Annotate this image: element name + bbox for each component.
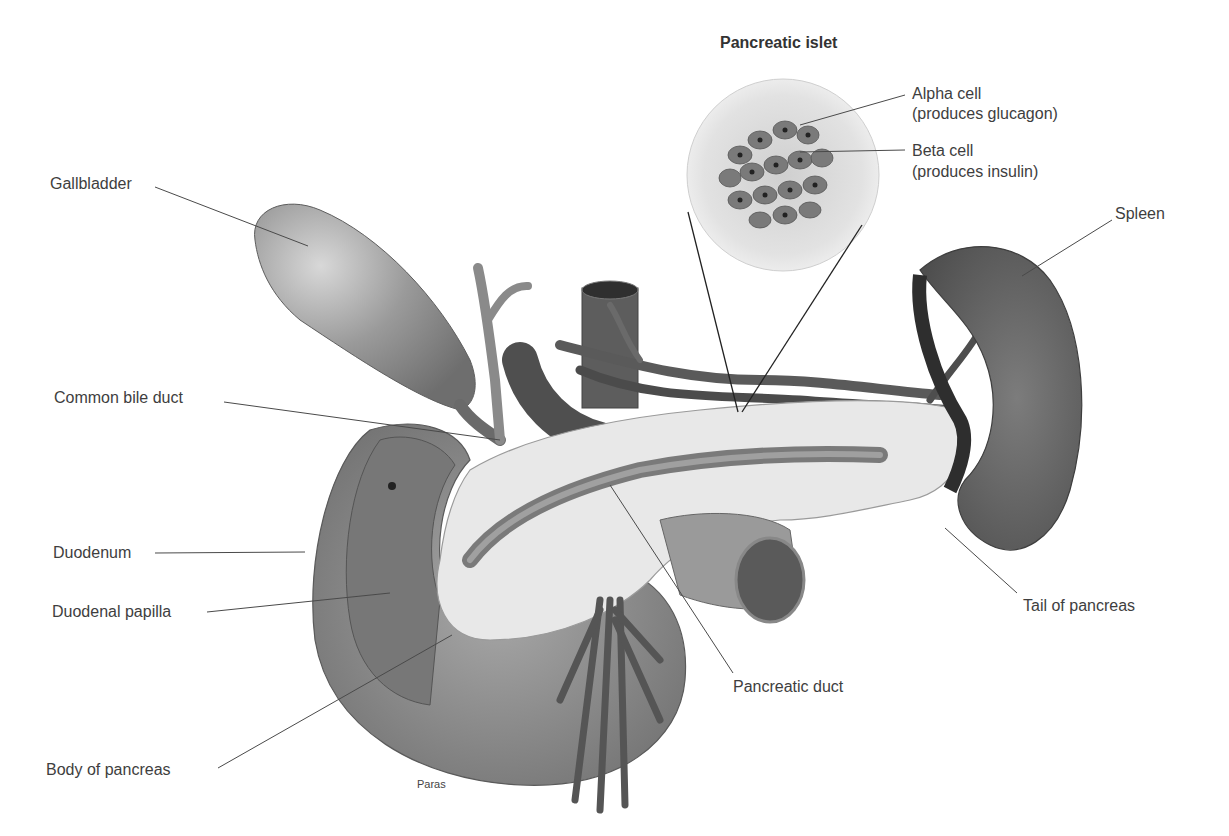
pancreas-anatomy-illustration — [0, 0, 1229, 836]
label-beta-cell: Beta cell — [912, 141, 973, 160]
label-body-of-pancreas: Body of pancreas — [46, 760, 171, 779]
inset-title: Pancreatic islet — [720, 34, 837, 52]
label-common-bile-duct: Common bile duct — [54, 388, 183, 407]
label-tail-of-pancreas: Tail of pancreas — [1023, 596, 1135, 615]
label-duodenum: Duodenum — [53, 543, 131, 562]
label-spleen: Spleen — [1115, 204, 1165, 223]
label-alpha-cell: Alpha cell — [912, 84, 981, 103]
label-alpha-cell-note: (produces glucagon) — [912, 104, 1058, 123]
spleen — [919, 247, 1081, 550]
label-beta-cell-note: (produces insulin) — [912, 162, 1038, 181]
label-gallbladder: Gallbladder — [50, 174, 132, 193]
jejunum — [660, 513, 804, 622]
label-pancreatic-duct: Pancreatic duct — [733, 677, 843, 696]
duodenal-papilla-opening — [388, 482, 396, 490]
artist-credit: Paras — [417, 778, 446, 790]
label-duodenal-papilla: Duodenal papilla — [52, 602, 171, 621]
pancreatic-islet-inset — [687, 79, 879, 412]
